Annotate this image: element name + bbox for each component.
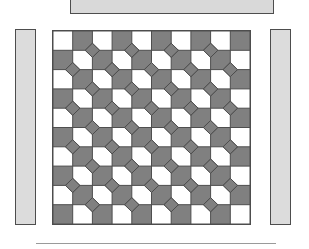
tiling-pattern-svg: [53, 31, 250, 224]
right-vertical-bar: [270, 29, 291, 225]
top-horizontal-bar: [70, 0, 274, 14]
pattern-panel: [52, 30, 251, 225]
bottom-horizontal-rule: [36, 243, 276, 244]
figure-canvas: [0, 0, 309, 249]
left-vertical-bar: [15, 29, 36, 225]
